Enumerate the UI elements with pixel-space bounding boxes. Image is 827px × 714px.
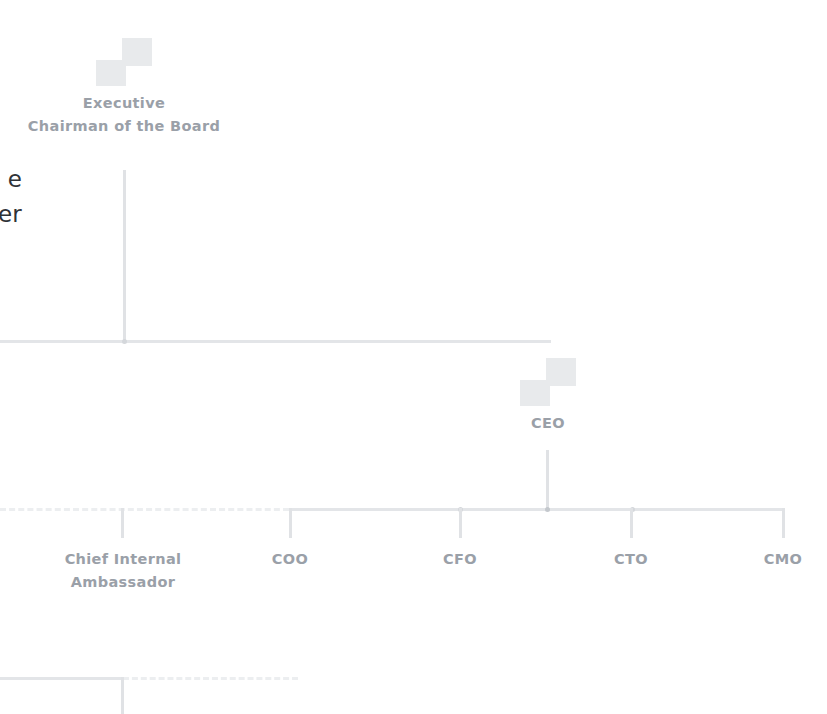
connector-drop-cmo	[782, 508, 785, 538]
junction-chairman	[122, 339, 127, 344]
node-chief-internal-ambassador[interactable]: Chief Internal Ambassador	[33, 548, 213, 594]
connector-drop-coo	[289, 508, 292, 538]
node-cmo[interactable]: CMO	[723, 548, 827, 571]
connector-bottom-drop	[121, 677, 124, 714]
node-label-cfo: CFO	[400, 548, 520, 571]
person-avatar-icon	[90, 38, 158, 82]
connector-chairman-stem	[123, 170, 126, 342]
clipped-heading-line-1: e	[0, 162, 22, 197]
clipped-heading-line-2: er	[0, 197, 22, 232]
node-label-executive-chairman: Executive Chairman of the Board	[24, 92, 224, 138]
avatar-square-bottom-left	[96, 60, 126, 86]
connector-drop-cfo	[459, 508, 462, 538]
clipped-heading: e er	[0, 162, 22, 232]
node-label-ceo: CEO	[480, 412, 616, 435]
connector-bottom-bus-dashed	[123, 677, 298, 680]
avatar-square-bottom-left	[520, 380, 550, 406]
person-avatar-icon	[514, 358, 582, 402]
node-cto[interactable]: CTO	[571, 548, 691, 571]
node-coo[interactable]: COO	[230, 548, 350, 571]
connector-main-bus	[0, 340, 551, 343]
node-label-coo: COO	[230, 548, 350, 571]
node-label-line-2: Ambassador	[33, 571, 213, 594]
org-chart-canvas: e er Executive Chairman of the Board CEO	[0, 0, 827, 714]
connector-executive-bus-dashed	[0, 508, 289, 511]
node-cfo[interactable]: CFO	[400, 548, 520, 571]
node-label-cto: CTO	[571, 548, 691, 571]
node-label-chief-internal-ambassador: Chief Internal Ambassador	[33, 548, 213, 594]
avatar-square-top-right	[122, 38, 152, 66]
avatar-square-top-right	[546, 358, 576, 386]
connector-drop-ambassador	[121, 508, 124, 538]
connector-executive-bus	[289, 508, 784, 511]
connector-ceo-stem	[546, 450, 549, 510]
node-label-cmo: CMO	[723, 548, 827, 571]
node-label-line-1: Executive	[24, 92, 224, 115]
node-ceo[interactable]: CEO	[480, 358, 616, 435]
connector-drop-cto	[630, 508, 633, 538]
node-label-line-1: Chief Internal	[33, 548, 213, 571]
junction-ceo	[545, 507, 550, 512]
node-label-line-2: Chairman of the Board	[24, 115, 224, 138]
connector-bottom-bus	[0, 677, 123, 680]
node-executive-chairman[interactable]: Executive Chairman of the Board	[24, 38, 224, 138]
